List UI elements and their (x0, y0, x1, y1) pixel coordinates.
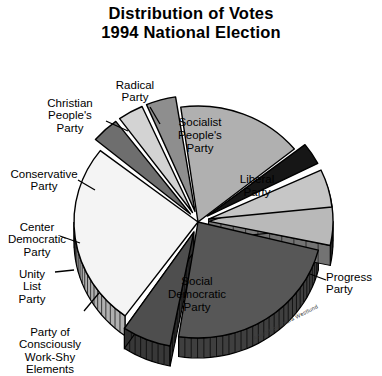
label-progress-party: Progress Party (326, 258, 382, 296)
label-social-democratic-party: Social Democratic Party (150, 262, 244, 314)
label-socialist-peoples-party: Socialist People's Party (163, 103, 237, 155)
label-socialist-peoples-party-text: Socialist People's Party (178, 116, 222, 154)
label-conservative-party: Conservative Party (6, 155, 82, 193)
label-radical-party-text: Radical Party (116, 79, 154, 104)
label-christian-peoples-party-text: Christian People's Party (47, 97, 92, 134)
label-social-democratic-party-text: Social Democratic Party (168, 275, 226, 313)
label-work-shy-party-text: Party of Consciously Work-Shy Elements (19, 326, 81, 376)
label-center-democratic-party-text: Center Democratic Party (8, 221, 66, 258)
label-christian-peoples-party: Christian People's Party (33, 84, 107, 134)
label-progress-party-text: Progress Party (326, 271, 372, 296)
label-unity-list-party-text: Unity List Party (19, 268, 46, 305)
label-conservative-party-text: Conservative Party (10, 168, 77, 193)
label-center-democratic-party: Center Democratic Party (2, 208, 72, 258)
label-liberal-party-text: Liberal Party (240, 173, 275, 198)
label-liberal-party: Liberal Party (226, 160, 288, 199)
label-radical-party: Radical Party (104, 66, 166, 104)
label-unity-list-party: Unity List Party (6, 255, 58, 305)
label-work-shy-party: Party of Consciously Work-Shy Elements (10, 313, 90, 376)
